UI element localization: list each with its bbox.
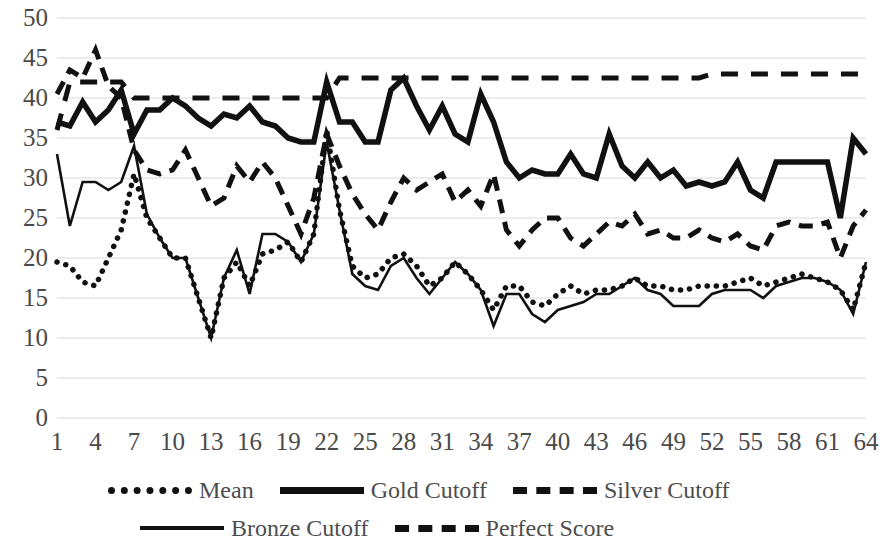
chart-legend: MeanGold CutoffSilver Cutoff Bronze Cuto…: [0, 470, 876, 553]
x-axis-tick-label: 13: [191, 429, 231, 454]
legend-label: Bronze Cutoff: [231, 516, 369, 540]
x-axis-tick-label: 40: [538, 429, 578, 454]
y-axis-tick-label: 20: [2, 245, 48, 270]
x-axis-tick-label: 49: [653, 429, 693, 454]
legend-item-silver-cutoff[interactable]: Silver Cutoff: [513, 478, 730, 502]
legend-swatch-dashed-icon: [513, 483, 597, 497]
x-axis-tick-label: 37: [499, 429, 539, 454]
x-axis-tick-label: 34: [461, 429, 501, 454]
legend-label: Mean: [199, 478, 254, 502]
legend-item-mean[interactable]: Mean: [108, 478, 254, 502]
legend-item-bronze-cutoff[interactable]: Bronze Cutoff: [140, 516, 369, 540]
x-axis-tick-label: 46: [615, 429, 655, 454]
x-axis-tick-label: 55: [730, 429, 770, 454]
legend-swatch-dashed-wide-icon: [395, 521, 479, 535]
x-axis-tick-label: 25: [345, 429, 385, 454]
series-line-silver-cutoff: [57, 50, 866, 258]
x-axis-tick-label: 1: [37, 429, 77, 454]
legend-row-secondary: Bronze CutoffPerfect Score: [140, 510, 640, 546]
y-axis-tick-label: 30: [2, 165, 48, 190]
x-axis-tick-label: 19: [268, 429, 308, 454]
legend-item-perfect-score[interactable]: Perfect Score: [395, 516, 615, 540]
x-axis-tick-label: 10: [153, 429, 193, 454]
legend-item-gold-cutoff[interactable]: Gold Cutoff: [280, 478, 487, 502]
y-axis-tick-label: 0: [2, 405, 48, 430]
y-axis-tick-label: 10: [2, 325, 48, 350]
series-layer: [57, 50, 866, 338]
x-axis-tick-label: 22: [307, 429, 347, 454]
x-axis-tick-label: 31: [422, 429, 462, 454]
x-axis-tick-label: 43: [576, 429, 616, 454]
legend-label: Gold Cutoff: [371, 478, 487, 502]
legend-label: Perfect Score: [486, 516, 615, 540]
legend-label: Silver Cutoff: [604, 478, 730, 502]
y-axis-tick-label: 25: [2, 205, 48, 230]
y-axis-tick-label: 50: [2, 5, 48, 30]
x-axis-tick-label: 52: [692, 429, 732, 454]
x-axis-tick-label: 58: [769, 429, 809, 454]
x-axis-tick-label: 28: [384, 429, 424, 454]
y-axis-tick-label: 15: [2, 285, 48, 310]
x-axis-tick-label: 7: [114, 429, 154, 454]
y-axis-tick-label: 5: [2, 365, 48, 390]
x-axis-tick-label: 16: [230, 429, 270, 454]
y-axis-tick-label: 40: [2, 85, 48, 110]
x-axis-tick-label: 64: [846, 429, 883, 454]
y-axis-tick-label: 35: [2, 125, 48, 150]
legend-swatch-solid-thick-icon: [280, 483, 364, 497]
x-axis-tick-label: 61: [807, 429, 847, 454]
legend-swatch-solid-thin-icon: [140, 521, 224, 535]
x-axis-tick-label: 4: [76, 429, 116, 454]
y-axis-tick-label: 45: [2, 45, 48, 70]
legend-swatch-dotted-icon: [108, 483, 192, 497]
legend-row-primary: MeanGold CutoffSilver Cutoff: [108, 472, 755, 508]
